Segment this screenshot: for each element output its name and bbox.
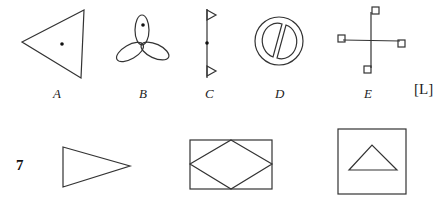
triangle-icon	[349, 145, 397, 170]
figure-1-triangle-icon	[63, 147, 130, 187]
option-a-figure	[22, 10, 84, 78]
petal-icon	[114, 38, 147, 65]
reference-label: [L]	[414, 81, 433, 97]
petal-icon	[135, 15, 149, 45]
option-b-figure	[114, 15, 172, 66]
option-e-label: E	[363, 86, 372, 101]
rectangle-icon	[190, 140, 272, 189]
square-icon	[372, 7, 379, 14]
dot-icon	[141, 23, 145, 27]
option-d-label: D	[274, 86, 285, 101]
flag-icon	[207, 10, 216, 20]
line-icon	[343, 40, 400, 41]
figure-3	[338, 129, 406, 194]
petal-icon	[138, 38, 171, 63]
dot-icon	[60, 42, 64, 46]
dot-icon	[205, 41, 209, 45]
square-icon	[338, 35, 345, 42]
option-e-figure	[338, 7, 405, 73]
question-number: 7	[16, 157, 24, 173]
option-b-label: B	[139, 86, 147, 101]
option-a-label: A	[52, 86, 61, 101]
option-c-label: C	[205, 86, 214, 101]
square-icon	[338, 129, 406, 194]
square-icon	[364, 66, 371, 73]
triangle-icon	[22, 10, 84, 78]
diagram-canvas: A B C D E [L] 7	[0, 0, 446, 205]
option-c-figure	[205, 9, 216, 78]
figure-2	[190, 140, 272, 189]
flag-icon	[207, 66, 216, 76]
option-d-figure	[255, 17, 303, 65]
diamond-icon	[190, 140, 272, 189]
